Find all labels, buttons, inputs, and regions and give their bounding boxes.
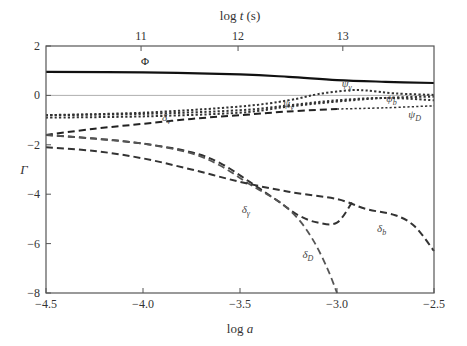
plot-frame: [46, 46, 434, 293]
x-tick-label: −3.0: [326, 297, 348, 311]
y-tick-label: 2: [34, 39, 40, 53]
series--: [46, 72, 434, 83]
y-axis: 20−2−4−6−8: [27, 39, 51, 300]
x-tick-label: −2.5: [423, 297, 445, 311]
top-x-axis: 111213: [135, 29, 349, 51]
y-tick-label: −4: [27, 187, 40, 201]
curves-layer: [46, 72, 434, 293]
y-tick-label: −6: [27, 237, 40, 251]
curve-label: ψb: [386, 92, 397, 107]
top-axis-title: log t (s): [220, 8, 260, 23]
curve-label: Φ: [141, 55, 149, 67]
x-tick-label: −4.5: [35, 297, 57, 311]
series--: [46, 135, 353, 225]
top-x-tick-label: 13: [337, 29, 349, 43]
y-tick-label: 0: [34, 88, 40, 102]
series--d: [46, 135, 337, 293]
curve-label: ψD: [408, 108, 421, 123]
curve-label: δb: [377, 222, 386, 237]
top-x-tick-label: 12: [232, 29, 244, 43]
x-axis-title: log a: [227, 321, 254, 336]
x-tick-label: −4.0: [132, 297, 154, 311]
top-x-tick-label: 11: [135, 29, 147, 43]
curve-label: δD: [302, 248, 313, 263]
series--b: [46, 147, 434, 251]
curve-label: ψγ: [342, 77, 353, 92]
y-tick-label: −2: [27, 138, 40, 152]
chart: 20−2−4−6−8 −4.5−4.0−3.5−3.0−2.5 111213 Φ…: [0, 0, 467, 346]
series--: [46, 90, 434, 115]
curve-label: δγ: [242, 203, 251, 218]
y-axis-title: Γ: [19, 162, 28, 177]
x-axis: −4.5−4.0−3.5−3.0−2.5: [35, 288, 445, 311]
x-tick-label: −3.5: [229, 297, 251, 311]
series--d: [337, 106, 434, 109]
curve-labels: ΦψγψνψbψDδνδγδbδD: [141, 55, 421, 264]
